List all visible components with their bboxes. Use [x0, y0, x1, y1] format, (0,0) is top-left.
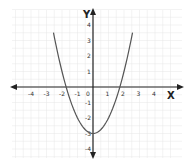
- x-axis-right-arrow: [177, 84, 184, 90]
- x-tick-labels: -4-3-2-101234: [28, 90, 156, 97]
- x-axis-label: X: [167, 90, 175, 101]
- grid: [12, 10, 182, 159]
- y-tick-label: -4: [85, 145, 91, 152]
- x-tick-label: 3: [137, 90, 141, 97]
- y-tick-label: -1: [85, 99, 91, 106]
- x-axis-left-arrow: [10, 84, 17, 90]
- y-tick-label: 3: [87, 37, 91, 44]
- parabola-chart: X Y -4-3-2-101234 4321-1-2-3-4: [0, 0, 188, 161]
- y-tick-label: 1: [87, 68, 91, 75]
- y-tick-label: 4: [87, 21, 91, 28]
- x-tick-label: -3: [44, 90, 50, 97]
- x-tick-label: 1: [106, 90, 110, 97]
- x-tick-label: -2: [59, 90, 65, 97]
- y-axis-top-arrow: [90, 8, 96, 15]
- x-tick-label: -4: [28, 90, 34, 97]
- x-tick-label: 2: [121, 90, 125, 97]
- y-tick-label: 2: [87, 52, 91, 59]
- y-axis-label: Y: [82, 9, 91, 20]
- axes: X Y: [10, 8, 184, 159]
- y-tick-label: -2: [85, 114, 91, 121]
- x-tick-label: 0: [86, 90, 90, 97]
- x-tick-label: 4: [152, 90, 156, 97]
- y-axis-bottom-arrow: [90, 152, 96, 159]
- x-tick-label: -1: [75, 90, 81, 97]
